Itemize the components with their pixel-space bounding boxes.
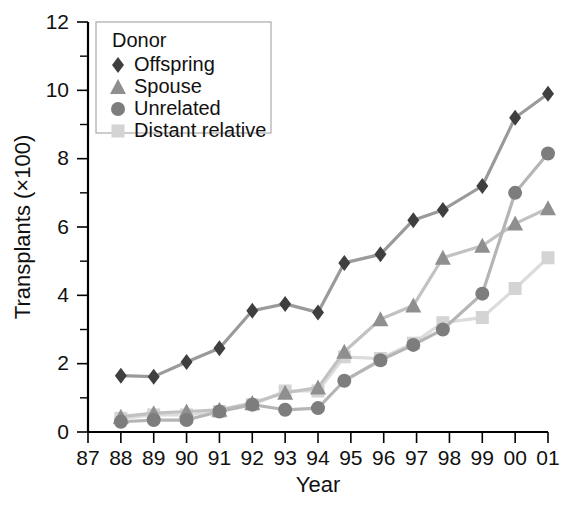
marker-circle xyxy=(475,287,489,301)
x-tick-label: 93 xyxy=(273,446,296,469)
marker-square xyxy=(476,311,489,324)
marker-circle xyxy=(111,102,125,116)
y-tick-label: 12 xyxy=(46,10,69,33)
marker-circle xyxy=(212,405,226,419)
marker-circle xyxy=(311,401,325,415)
x-tick-label: 92 xyxy=(241,446,264,469)
x-axis: 878889909192939495969798990001 xyxy=(76,432,559,469)
marker-circle xyxy=(278,403,292,417)
marker-triangle xyxy=(507,216,523,231)
chart-svg: 024681012 878889909192939495969798990001… xyxy=(0,0,582,508)
marker-circle xyxy=(436,323,450,337)
x-tick-label: 87 xyxy=(76,446,99,469)
marker-triangle xyxy=(474,238,490,253)
marker-square xyxy=(112,125,125,138)
x-tick-label: 96 xyxy=(372,446,395,469)
series-unrelated xyxy=(114,147,555,429)
chart-legend: DonorOffspringSpouseUnrelatedDistant rel… xyxy=(96,22,271,141)
marker-circle xyxy=(147,413,161,427)
marker-circle xyxy=(406,338,420,352)
marker-square xyxy=(542,251,555,264)
marker-circle xyxy=(337,374,351,388)
legend-item-label: Distant relative xyxy=(134,119,266,141)
x-tick-label: 01 xyxy=(536,446,559,469)
marker-circle xyxy=(541,147,555,161)
marker-diamond xyxy=(115,368,127,384)
y-tick-label: 4 xyxy=(57,283,69,306)
marker-diamond xyxy=(279,296,291,312)
legend-item-label: Offspring xyxy=(134,53,215,75)
marker-diamond xyxy=(148,369,160,385)
x-tick-label: 91 xyxy=(208,446,231,469)
marker-diamond xyxy=(542,86,554,102)
marker-circle xyxy=(245,398,259,412)
legend-item-label: Unrelated xyxy=(134,97,221,119)
marker-diamond xyxy=(437,202,449,218)
marker-triangle xyxy=(540,200,556,215)
y-tick-label: 8 xyxy=(57,146,69,169)
x-tick-label: 94 xyxy=(306,446,330,469)
marker-square xyxy=(509,282,522,295)
y-tick-label: 0 xyxy=(57,420,69,443)
transplants-by-donor-chart: 024681012 878889909192939495969798990001… xyxy=(0,0,582,508)
y-tick-label: 6 xyxy=(57,215,69,238)
legend-title: Donor xyxy=(112,29,167,51)
marker-circle xyxy=(508,186,522,200)
x-tick-label: 90 xyxy=(175,446,198,469)
y-axis: 024681012 xyxy=(46,10,88,443)
x-tick-label: 89 xyxy=(142,446,165,469)
marker-circle xyxy=(180,413,194,427)
marker-diamond xyxy=(181,354,193,370)
y-axis-title: Transplants (×100) xyxy=(10,135,35,319)
legend-item-label: Spouse xyxy=(134,75,202,97)
x-tick-label: 88 xyxy=(109,446,132,469)
y-tick-label: 2 xyxy=(57,351,69,374)
x-tick-label: 97 xyxy=(405,446,428,469)
x-tick-label: 98 xyxy=(438,446,461,469)
marker-circle xyxy=(373,353,387,367)
y-tick-label: 10 xyxy=(46,78,69,101)
marker-triangle xyxy=(405,298,421,313)
x-axis-title: Year xyxy=(296,472,340,497)
x-tick-label: 00 xyxy=(503,446,526,469)
x-tick-label: 99 xyxy=(471,446,494,469)
x-tick-label: 95 xyxy=(339,446,362,469)
marker-triangle xyxy=(372,311,388,326)
marker-circle xyxy=(114,415,128,429)
